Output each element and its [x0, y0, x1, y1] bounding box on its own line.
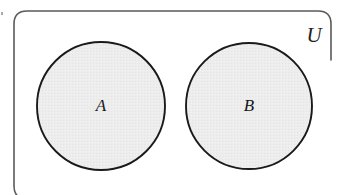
venn-diagram-figure: A B U — [0, 0, 337, 195]
universal-set-label: U — [306, 23, 323, 47]
set-a-label: A — [95, 96, 107, 115]
venn-diagram-canvas: A B U — [0, 0, 337, 195]
scan-artifact — [1, 12, 3, 15]
set-b-label: B — [244, 96, 255, 115]
